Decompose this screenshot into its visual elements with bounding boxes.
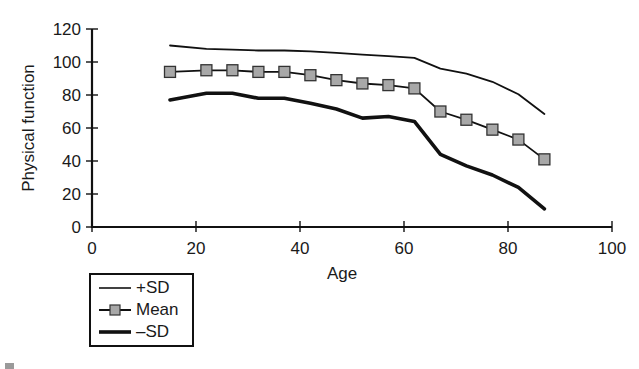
mean-marker (357, 78, 368, 89)
axes: 020406080100020406080100120 (53, 20, 627, 258)
mean-marker (201, 65, 212, 76)
legend-label: +SD (136, 278, 170, 298)
x-tick-label: 60 (395, 239, 414, 258)
y-tick-label: 0 (72, 218, 81, 237)
x-tick-label: 40 (291, 239, 310, 258)
mean-marker (305, 70, 316, 81)
mean-marker (409, 83, 420, 94)
legend-label: –SD (136, 322, 169, 342)
mean-marker (227, 65, 238, 76)
y-tick-label: 100 (53, 53, 81, 72)
minus-sd-line (170, 93, 544, 209)
x-tick-label: 20 (187, 239, 206, 258)
mean-marker (279, 66, 290, 77)
figure-caption-marker (5, 363, 14, 369)
x-tick-label: 100 (598, 239, 626, 258)
x-tick-label: 80 (499, 239, 518, 258)
chart-legend: +SD Mean –SD (89, 273, 194, 347)
y-tick-label: 80 (62, 86, 81, 105)
mean-marker (383, 80, 394, 91)
y-tick-label: 20 (62, 185, 81, 204)
y-tick-label: 60 (62, 119, 81, 138)
mean-marker (487, 124, 498, 135)
mean-marker (165, 66, 176, 77)
plot-area (165, 46, 550, 209)
y-tick-label: 120 (53, 20, 81, 39)
mean-marker (435, 106, 446, 117)
mean-marker (461, 114, 472, 125)
legend-item-mean: Mean (97, 299, 179, 321)
x-tick-label: 0 (87, 239, 96, 258)
y-tick-label: 40 (62, 152, 81, 171)
mean-marker (331, 75, 342, 86)
legend-item-minus-sd: –SD (97, 321, 169, 343)
x-axis-title: Age (327, 264, 357, 283)
legend-item-plus-sd: +SD (97, 277, 170, 299)
mean-marker (539, 154, 550, 165)
mean-marker (253, 66, 264, 77)
square-marker-line-icon (97, 300, 133, 320)
thick-line-icon (97, 322, 133, 342)
legend-label: Mean (136, 300, 179, 320)
mean-marker (513, 134, 524, 145)
thin-line-icon (97, 278, 133, 298)
y-axis-title: Physical function (19, 64, 38, 192)
